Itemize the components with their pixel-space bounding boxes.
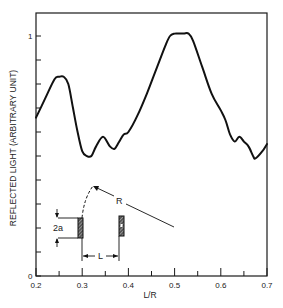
x-tick-label: 0.5 <box>169 281 181 290</box>
plot-frame <box>36 13 267 276</box>
x-tick-label: 0.2 <box>30 281 42 290</box>
label-L: L <box>98 251 103 261</box>
y-axis-ticks <box>36 36 41 276</box>
r-line-lower <box>126 204 174 227</box>
x-axis-title: L/R <box>143 290 156 300</box>
x-axis-tick-labels: 0.20.30.40.50.60.7 <box>30 281 273 290</box>
x-tick-label: 0.7 <box>261 281 273 290</box>
y-axis-title: REFLECTED LIGHT (ARBITRARY UNIT) <box>8 70 18 226</box>
x-tick-label: 0.4 <box>123 281 135 290</box>
label-2a: 2a <box>53 223 63 233</box>
dashed-arc <box>82 186 93 218</box>
y-tick-label-1: 1 <box>28 32 33 41</box>
y-tick-label-0: 0 <box>28 272 33 281</box>
label-R: R <box>116 196 123 206</box>
x-tick-label: 0.3 <box>77 281 89 290</box>
data-series-line <box>36 33 267 159</box>
arrowhead-right-icon <box>113 254 118 258</box>
left-slit-bar <box>78 218 83 238</box>
chart-figure: 0.20.30.40.50.60.7 1 0 L/R REFLECTED LIG… <box>0 0 283 308</box>
x-tick-label: 0.6 <box>215 281 227 290</box>
inset-diagram: 2a L R <box>53 186 174 261</box>
x-axis-ticks <box>36 268 267 276</box>
right-slit-gap <box>121 224 123 227</box>
arrowhead-left-icon <box>83 254 88 258</box>
arrowhead-down-icon <box>55 213 59 218</box>
arrowhead-up-icon <box>55 238 59 243</box>
